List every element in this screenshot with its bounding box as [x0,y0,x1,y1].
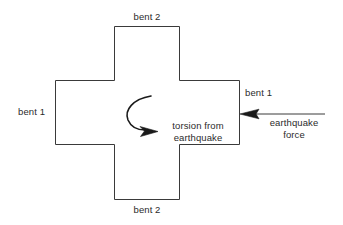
torsion-moment-arc [127,96,151,130]
earthquake-force-arrowhead [240,109,259,119]
torsion-moment-arrow [127,96,158,137]
diagram-canvas: bent 2 bent 2 bent 1 bent 1 torsion from… [0,0,343,225]
label-bent-2-top: bent 2 [133,11,160,23]
vertical-wing-shape [115,27,180,200]
label-bent-1-right: bent 1 [245,87,272,99]
label-bent-1-left: bent 1 [18,106,45,118]
torsion-moment-arrowhead [140,127,158,137]
label-torsion-from-earthquake: torsion from earthquake [172,120,223,143]
diagram-graphics [0,0,343,225]
label-earthquake-force: earthquake force [270,117,319,140]
label-bent-2-bottom: bent 2 [133,204,160,216]
